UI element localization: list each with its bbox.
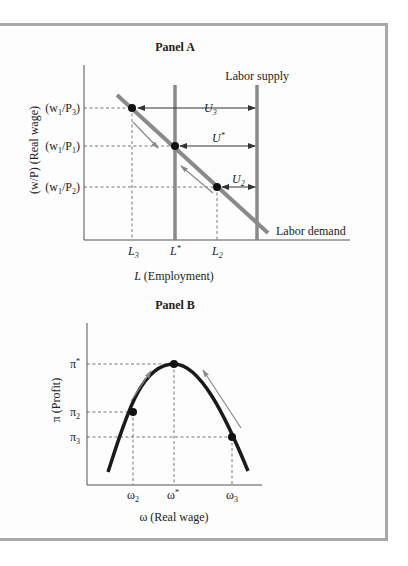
panel-b-y-axis-label: π (Profit) [49,378,63,422]
y-tick-w1p2: (w1/P2) [45,180,80,196]
point-w1p1 [171,142,179,150]
u2-label: U2 [232,172,245,188]
y-tick-pi3: π3 [70,430,80,446]
point-w1p3 [128,104,136,112]
x-tick-omega3: ω3 [226,488,238,504]
panel-b: Panel B π* π2 π3 π (Profit) ω2 ω* ω3 ω (… [49,298,262,524]
point-pi2 [129,408,137,416]
panel-b-x-axis-label: ω (Real wage) [139,510,208,524]
ustar-label: U* [212,131,225,145]
panel-b-title: Panel B [155,298,195,312]
point-pi3 [228,433,236,441]
profit-arrow-right [203,370,241,428]
y-tick-pi-star: π* [70,357,80,371]
diagram-canvas: Panel A Labor supply Labor demand [0,0,408,566]
x-tick-lstar: L* [169,244,181,258]
profit-arrow-left [131,371,151,401]
panel-a: Panel A Labor supply Labor demand [27,40,350,283]
x-tick-omega-star: ω* [167,488,179,502]
labor-demand-label: Labor demand [276,224,346,238]
labor-demand-line [117,95,268,233]
x-tick-l2: L2 [211,244,223,260]
panel-a-title: Panel A [155,40,195,54]
point-w1p2 [213,183,221,191]
x-tick-l3: L3 [127,244,139,260]
y-tick-pi2: π2 [70,405,80,421]
panel-a-y-axis-label: (w/P) (Real wage) [27,106,41,194]
labor-supply-label: Labor supply [225,69,289,83]
x-tick-omega2: ω2 [127,488,139,504]
y-tick-w1p3: (w1/P3) [45,101,80,117]
panel-a-x-axis-label: L (Employment) [133,269,214,283]
adjust-arrow-down [133,122,158,148]
u3-label: U3 [204,101,217,117]
profit-curve [108,364,248,472]
y-tick-w1p1: (w1/P1) [45,139,80,155]
point-pi-star [170,360,178,368]
